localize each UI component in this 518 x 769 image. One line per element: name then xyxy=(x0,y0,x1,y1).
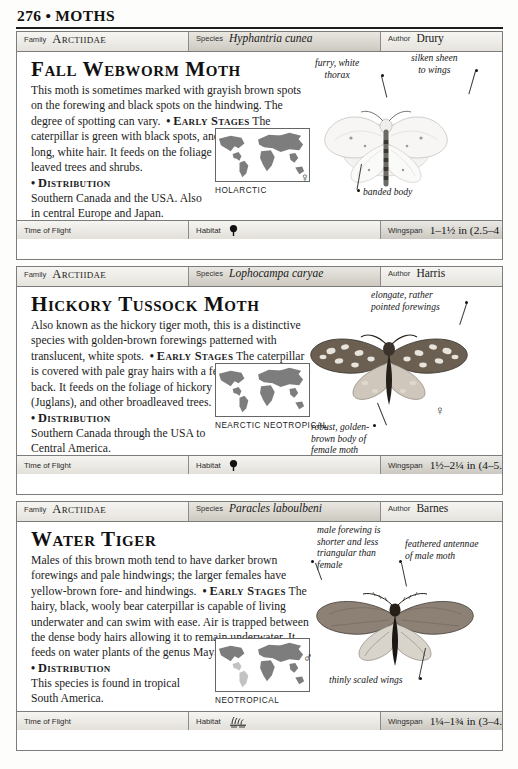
specimen-plate: male forewing is shorter and less triang… xyxy=(297,522,502,730)
habitat-label: Habitat xyxy=(196,717,221,726)
species-value: Hyphantria cunea xyxy=(229,32,312,44)
wingspan-value: 1¼–1¾ in (3–4.5 cm) xyxy=(430,715,502,727)
wingspan-cell: Wingspan 1½–2¼ in (4–5.5 cm) xyxy=(380,456,502,474)
common-name: Water Tiger xyxy=(31,528,313,550)
species-cell: Species Paracles laboulbeni xyxy=(188,502,380,521)
wingspan-cell: Wingspan 1¼–1¾ in (3–4.5 cm) xyxy=(380,712,502,730)
distribution-paragraph: • Distribution Southern Canada through t… xyxy=(31,410,206,456)
species-label: Species xyxy=(196,34,223,43)
page-section-title: MOTHS xyxy=(55,7,115,24)
distribution-text: Southern Canada through the USA to Centr… xyxy=(31,427,205,455)
tree-icon xyxy=(228,224,239,237)
family-value: Arctiidae xyxy=(52,267,106,282)
time-of-flight-label: Time of Flight xyxy=(24,226,71,235)
family-label: Family xyxy=(24,35,46,44)
crescent-moon-icon xyxy=(78,715,89,728)
habitat-cell: Habitat xyxy=(188,456,380,474)
wingspan-label: Wingspan xyxy=(388,717,423,726)
species-entry: Family Arctiidae Species Paracles laboul… xyxy=(16,501,503,751)
distribution-heading: Distribution xyxy=(38,411,111,425)
header-rule xyxy=(16,27,503,29)
family-cell: Family Arctiidae xyxy=(17,267,188,286)
species-value: Paracles laboulbeni xyxy=(229,502,322,514)
specimen-plate: elongate, rather pointed forewings robus… xyxy=(297,287,502,474)
callout-leader-line xyxy=(468,71,476,94)
callout-label: elongate, rather pointed forewings xyxy=(371,289,440,312)
entry-body: Water Tiger Males of this brown moth ten… xyxy=(17,522,502,730)
bullet-glyph: • xyxy=(147,350,157,363)
water-reeds-icon xyxy=(228,715,248,728)
distribution-heading: Distribution xyxy=(38,661,111,675)
callout-label: feathered antennae of male moth xyxy=(405,538,478,561)
bullet-glyph: • xyxy=(199,585,209,598)
entry-body: Fall Webworm Moth This moth is sometimes… xyxy=(17,52,502,239)
taxonomy-bar: Family Arctiidae Species Paracles laboul… xyxy=(17,502,502,522)
distribution-text: Southern Canada and the USA. Also in cen… xyxy=(31,192,202,220)
attributes-footer: Time of Flight Habitat Wingspan 1–1½ in … xyxy=(17,220,502,239)
distribution-map-block: HOLARCTIC xyxy=(215,128,310,197)
habitat-cell: Habitat xyxy=(188,712,380,730)
time-of-flight-label: Time of Flight xyxy=(24,461,71,470)
attributes-footer: Time of Flight Habitat Wingspan 1½–2¼ in… xyxy=(17,455,502,474)
moth-illustration xyxy=(305,311,473,431)
family-cell: Family Arctiidae xyxy=(17,502,188,521)
habitat-label: Habitat xyxy=(196,226,221,235)
entry-body: Hickory Tussock Moth Also known as the h… xyxy=(17,287,502,474)
time-of-flight-cell: Time of Flight xyxy=(17,221,188,239)
specimen-plate: furry, white thorax silken sheen to wing… xyxy=(297,52,502,239)
species-entry: Family Arctiidae Species Hyphantria cune… xyxy=(16,31,503,260)
callout-label: silken sheen to wings xyxy=(411,52,458,75)
early-stages-heading: Early Stages xyxy=(209,584,285,598)
author-value: Harris xyxy=(416,267,445,279)
author-value: Barnes xyxy=(416,502,448,514)
callout-label: thinly scaled wings xyxy=(329,674,403,686)
distribution-paragraph: • Distribution This species is found in … xyxy=(31,660,206,706)
author-cell: Author Barnes xyxy=(380,502,502,521)
family-value: Arctiidae xyxy=(52,502,106,517)
bullet-glyph: • xyxy=(31,662,38,675)
species-entry: Family Arctiidae Species Lophocampa cary… xyxy=(16,266,503,495)
crescent-moon-icon xyxy=(78,224,89,237)
callout-label: robust, golden- brown body of female mot… xyxy=(311,421,369,456)
sex-symbol: ♂ xyxy=(303,650,313,666)
wingspan-cell: Wingspan 1–1½ in (2.5–4 cm) xyxy=(380,221,502,239)
callout-label: banded body xyxy=(363,186,412,198)
world-map xyxy=(215,638,310,692)
species-label: Species xyxy=(196,269,223,278)
author-cell: Author Harris xyxy=(380,267,502,286)
author-label: Author xyxy=(388,269,410,278)
taxonomy-bar: Family Arctiidae Species Hyphantria cune… xyxy=(17,32,502,52)
world-map xyxy=(215,128,310,182)
sex-symbol: ♀ xyxy=(300,170,310,186)
map-region-caption: NEOTROPICAL xyxy=(215,696,310,707)
author-cell: Author Drury xyxy=(380,32,502,51)
author-label: Author xyxy=(388,504,410,513)
species-value: Lophocampa caryae xyxy=(229,267,323,279)
distribution-paragraph: • Distribution Southern Canada and the U… xyxy=(31,175,206,221)
world-map-svg xyxy=(216,129,309,181)
callout-anchor-dot xyxy=(373,424,376,427)
world-map-svg xyxy=(216,639,309,691)
distribution-map-block: NEOTROPICAL xyxy=(215,638,310,707)
taxonomy-bar: Family Arctiidae Species Lophocampa cary… xyxy=(17,267,502,287)
bullet-glyph: • xyxy=(31,412,38,425)
species-cell: Species Hyphantria cunea xyxy=(188,32,380,51)
habitat-label: Habitat xyxy=(196,461,221,470)
page-folio: 276 xyxy=(17,7,41,24)
world-map xyxy=(215,363,310,417)
crescent-moon-icon xyxy=(78,459,89,472)
time-of-flight-cell: Time of Flight xyxy=(17,456,188,474)
wingspan-value: 1–1½ in (2.5–4 cm) xyxy=(430,224,502,236)
bullet-glyph: • xyxy=(31,177,38,190)
map-region-caption: HOLARCTIC xyxy=(215,186,310,197)
callout-label: furry, white thorax xyxy=(315,57,359,80)
wingspan-value: 1½–2¼ in (4–5.5 cm) xyxy=(430,459,502,471)
time-of-flight-cell: Time of Flight xyxy=(17,712,188,730)
sex-symbol: ♀ xyxy=(435,403,445,419)
family-cell: Family Arctiidae xyxy=(17,32,188,51)
family-label: Family xyxy=(24,270,46,279)
distribution-heading: Distribution xyxy=(38,176,111,190)
early-stages-heading: Early Stages xyxy=(157,349,233,363)
tree-icon xyxy=(228,459,239,472)
common-name: Hickory Tussock Moth xyxy=(31,293,313,315)
